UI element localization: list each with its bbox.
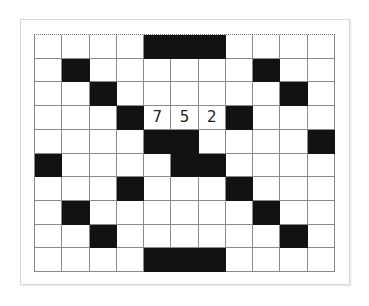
grid-cell[interactable] (308, 248, 335, 272)
grid-cell[interactable] (62, 130, 89, 154)
grid-cell[interactable] (171, 177, 198, 201)
grid-cell[interactable] (171, 225, 198, 249)
grid-cell[interactable] (226, 130, 253, 154)
grid-cell[interactable] (90, 154, 117, 178)
grid-cell[interactable] (90, 106, 117, 130)
grid-cell[interactable] (117, 130, 144, 154)
grid-cell[interactable] (144, 225, 171, 249)
grid-cell[interactable] (35, 225, 62, 249)
grid-cell[interactable] (62, 106, 89, 130)
black-cell (171, 154, 198, 178)
grid-cell[interactable] (199, 201, 226, 225)
grid-cell[interactable] (199, 177, 226, 201)
grid-cell[interactable] (117, 59, 144, 83)
grid-cell[interactable] (90, 248, 117, 272)
grid-cell[interactable] (280, 59, 307, 83)
grid-cell[interactable] (35, 201, 62, 225)
grid-cell[interactable] (62, 154, 89, 178)
grid-cell[interactable] (117, 225, 144, 249)
grid-cell[interactable] (280, 154, 307, 178)
grid-cell[interactable] (226, 82, 253, 106)
black-cell (226, 106, 253, 130)
grid-cell[interactable] (308, 59, 335, 83)
grid-cell[interactable] (253, 35, 280, 59)
grid-cell[interactable]: 2 (199, 106, 226, 130)
grid-cell[interactable] (308, 106, 335, 130)
grid-cell[interactable] (226, 154, 253, 178)
grid-cell[interactable] (144, 201, 171, 225)
grid-cell[interactable] (308, 225, 335, 249)
grid-cell[interactable] (90, 177, 117, 201)
cell-number: 7 (152, 108, 162, 126)
grid-cell[interactable] (253, 154, 280, 178)
black-cell (144, 248, 171, 272)
grid-cell[interactable] (253, 225, 280, 249)
grid-cell[interactable] (35, 106, 62, 130)
grid-cell[interactable] (144, 59, 171, 83)
grid-cell[interactable] (144, 154, 171, 178)
grid-cell[interactable] (253, 130, 280, 154)
grid-cell[interactable] (62, 177, 89, 201)
grid-cell[interactable] (62, 225, 89, 249)
grid-cell[interactable] (308, 177, 335, 201)
grid-cell[interactable] (117, 154, 144, 178)
grid-cell[interactable] (308, 201, 335, 225)
grid-cell[interactable] (171, 201, 198, 225)
grid-cell[interactable] (226, 59, 253, 83)
grid-cell[interactable] (117, 35, 144, 59)
grid-cell[interactable] (253, 106, 280, 130)
grid-cell[interactable] (280, 35, 307, 59)
grid-cell[interactable] (253, 82, 280, 106)
grid-cell[interactable] (62, 82, 89, 106)
grid-cell[interactable] (90, 201, 117, 225)
black-cell (117, 106, 144, 130)
grid-cell[interactable] (62, 35, 89, 59)
grid-cell[interactable]: 7 (144, 106, 171, 130)
grid-cell[interactable] (253, 248, 280, 272)
grid-cell[interactable] (117, 82, 144, 106)
black-cell (199, 248, 226, 272)
grid-cell[interactable] (226, 248, 253, 272)
grid-cell[interactable] (280, 201, 307, 225)
grid-cell[interactable] (308, 35, 335, 59)
grid-cell[interactable] (308, 154, 335, 178)
grid-cell[interactable] (280, 106, 307, 130)
grid-cell[interactable] (226, 225, 253, 249)
grid-cell[interactable] (144, 177, 171, 201)
black-cell (90, 225, 117, 249)
grid-cell[interactable] (199, 130, 226, 154)
grid-cell[interactable] (90, 35, 117, 59)
grid-cell[interactable] (199, 82, 226, 106)
grid-cell[interactable] (226, 35, 253, 59)
grid-cell[interactable] (280, 130, 307, 154)
grid-cell[interactable] (199, 225, 226, 249)
grid-cell[interactable] (171, 59, 198, 83)
black-cell (199, 35, 226, 59)
grid-cell[interactable] (226, 201, 253, 225)
grid-cell[interactable] (35, 59, 62, 83)
grid-cell[interactable] (35, 35, 62, 59)
grid-cell[interactable] (117, 248, 144, 272)
grid-cell[interactable] (280, 177, 307, 201)
grid-cell[interactable] (62, 248, 89, 272)
black-cell (199, 154, 226, 178)
grid-cell[interactable] (35, 177, 62, 201)
black-cell (144, 130, 171, 154)
grid-cell[interactable] (308, 82, 335, 106)
black-cell (35, 154, 62, 178)
grid-cell[interactable] (280, 248, 307, 272)
grid-cell[interactable] (171, 82, 198, 106)
grid-cell[interactable] (117, 201, 144, 225)
grid-cell[interactable] (199, 59, 226, 83)
black-cell (90, 82, 117, 106)
grid-cell[interactable] (90, 59, 117, 83)
black-cell (226, 177, 253, 201)
grid-cell[interactable]: 5 (171, 106, 198, 130)
grid-cell[interactable] (35, 248, 62, 272)
black-cell (171, 130, 198, 154)
grid-cell[interactable] (35, 82, 62, 106)
grid-cell[interactable] (90, 130, 117, 154)
grid-cell[interactable] (144, 82, 171, 106)
grid-cell[interactable] (35, 130, 62, 154)
grid-cell[interactable] (253, 177, 280, 201)
